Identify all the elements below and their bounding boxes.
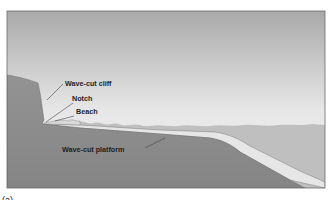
wave-cut-platform-diagram: Wave-cut cliff Notch Beach Wave-cut plat… xyxy=(0,0,333,200)
label-wave-cut-cliff: Wave-cut cliff xyxy=(65,79,112,88)
label-notch: Notch xyxy=(72,94,92,103)
label-beach: Beach xyxy=(76,107,98,116)
figure-caption: (a) xyxy=(2,195,13,200)
label-wave-cut-platform: Wave-cut platform xyxy=(62,145,124,154)
